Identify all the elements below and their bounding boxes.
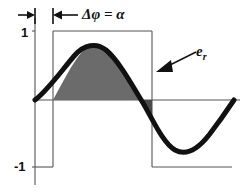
er-leader-line — [168, 52, 196, 66]
sine-wave-diagram: 1 -1 Δφ = α er — [0, 0, 247, 191]
dimension-arrow-span-head-icon — [53, 11, 62, 20]
curve-label-er: er — [196, 44, 207, 62]
curve-label-er-subscript: r — [203, 51, 207, 62]
y-axis-label-minus-one: -1 — [14, 160, 26, 173]
dimension-arrow-left-head-icon — [27, 11, 35, 19]
phase-span-label: Δφ = α — [82, 7, 125, 22]
curve-label-er-base: e — [196, 43, 203, 59]
y-axis-label-plus-one: 1 — [21, 26, 28, 39]
diagram-canvas — [0, 0, 247, 191]
er-leader-arrow-head-icon — [156, 60, 173, 72]
